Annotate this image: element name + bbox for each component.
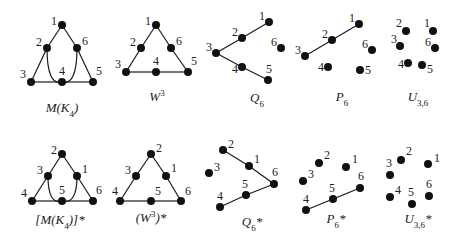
vertex-2	[315, 159, 323, 167]
vertex-5	[89, 78, 97, 86]
graph-name-label: [M(K4)]*	[35, 212, 85, 231]
edge-1-2	[141, 25, 156, 48]
graph-p6-dual: 213654P6*	[299, 148, 364, 230]
vertex-label: 2	[51, 143, 57, 157]
vertex-label: 1	[51, 14, 57, 28]
edge-1-2	[242, 22, 269, 38]
vertex-6	[425, 192, 433, 200]
vertex-label: 5	[266, 62, 272, 76]
vertex-label: 3	[115, 57, 121, 71]
vertex-6	[368, 46, 376, 54]
vertex-6	[73, 44, 81, 52]
vertex-label: 5	[408, 185, 414, 199]
vertex-1	[424, 160, 432, 168]
vertex-label: 5	[59, 183, 65, 197]
edge-6-5	[333, 188, 360, 199]
vertex-5	[242, 191, 250, 199]
vertex-label: 3	[125, 163, 131, 177]
vertex-1	[342, 163, 350, 171]
vertex-label: 2	[228, 137, 234, 151]
vertex-1	[73, 172, 81, 180]
graph-name-label: Q6	[250, 90, 264, 109]
vertex-5	[264, 76, 272, 84]
graph-m-k4-dual: 231456[M(K4)]*	[21, 143, 102, 231]
graph-name-label: U3,6	[408, 89, 429, 108]
vertex-label: 4	[21, 186, 27, 200]
edge-1-6	[77, 176, 93, 201]
vertex-label: 3	[206, 40, 212, 54]
graph-u36: 213645U3,6	[391, 16, 439, 108]
vertex-label: 6	[362, 37, 368, 51]
vertex-2	[137, 44, 145, 52]
graph-name-label: P6	[335, 89, 349, 108]
vertex-4	[58, 78, 66, 86]
vertex-4	[404, 59, 412, 67]
vertex-label: 6	[426, 177, 432, 191]
vertex-2	[328, 36, 336, 44]
vertex-label: 4	[303, 192, 309, 206]
vertex-label: 6	[82, 34, 88, 48]
vertex-3	[301, 52, 309, 60]
vertex-2	[238, 34, 246, 42]
graph-name-label: M(K4)	[45, 100, 79, 119]
vertex-6	[277, 44, 285, 52]
vertex-3	[299, 177, 307, 185]
edge-6-5	[77, 48, 93, 82]
vertex-2	[397, 156, 405, 164]
vertex-label: 3	[391, 32, 397, 46]
vertex-5	[418, 61, 426, 69]
vertex-1	[265, 18, 273, 26]
vertex-5	[329, 195, 337, 203]
vertex-label: 5	[365, 63, 371, 77]
vertex-5	[408, 200, 416, 208]
vertex-label: 1	[82, 162, 88, 176]
vertex-6	[167, 44, 175, 52]
vertex-label: 4	[153, 54, 159, 68]
vertex-5	[356, 66, 364, 74]
edge-6-5	[246, 184, 274, 195]
vertex-label: 1	[145, 14, 151, 28]
vertex-3	[27, 78, 35, 86]
vertex-label: 4	[398, 57, 404, 71]
edge-2-3	[216, 38, 242, 53]
vertex-label: 4	[112, 184, 118, 198]
vertex-2	[402, 27, 410, 35]
vertex-6	[356, 184, 364, 192]
vertex-label: 1	[349, 11, 355, 25]
vertex-5	[184, 68, 192, 76]
edge-1-6	[166, 176, 181, 201]
edge-2-3	[305, 40, 332, 56]
vertex-label: 4	[232, 62, 238, 76]
vertex-4	[216, 203, 224, 211]
vertex-4	[386, 193, 394, 201]
vertex-3	[122, 68, 130, 76]
vertex-4	[28, 197, 36, 205]
vertex-3	[396, 42, 404, 50]
vertex-1	[429, 27, 437, 35]
vertex-label: 5	[242, 177, 248, 191]
vertex-label: 2	[406, 144, 412, 158]
vertex-3	[132, 172, 140, 180]
graph-w3: 126345W3	[115, 14, 197, 104]
vertex-label: 5	[329, 181, 335, 195]
vertex-2	[43, 44, 51, 52]
vertex-4	[152, 68, 160, 76]
vertex-label: 2	[130, 35, 136, 49]
vertex-label: 3	[295, 43, 301, 57]
vertex-5	[58, 197, 66, 205]
edge-1-6	[156, 25, 171, 48]
edge-2-3	[126, 48, 141, 72]
vertex-1	[58, 21, 66, 29]
edge-1-6	[249, 166, 274, 184]
vertex-1	[355, 20, 363, 28]
vertex-label: 1	[352, 152, 358, 166]
edge-1-2	[332, 24, 359, 40]
vertex-6	[431, 44, 439, 52]
graph-name-label: (W3)*	[136, 209, 167, 225]
vertex-4	[324, 63, 332, 71]
vertex-label: 2	[232, 25, 238, 39]
graph-name-label: W3	[149, 88, 165, 104]
vertex-label: 2	[156, 141, 162, 155]
vertex-3	[212, 49, 220, 57]
vertex-label: 1	[424, 16, 430, 30]
